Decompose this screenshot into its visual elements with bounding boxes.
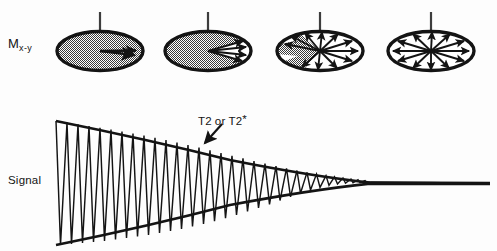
label-signal-axis: Signal	[8, 174, 41, 186]
label-mxy-base: M	[8, 36, 19, 51]
label-t2-star: *	[242, 113, 247, 125]
figure-canvas	[0, 0, 497, 251]
label-t2-second: T2	[228, 115, 242, 127]
label-transverse-magnetization: Mx-y	[8, 36, 32, 53]
label-t2-first: T2	[198, 115, 212, 127]
label-mxy-subscript: x-y	[19, 43, 32, 53]
figure-root: Mx-y Signal T2orT2*	[0, 0, 497, 251]
label-t2-conjunction: or	[215, 115, 226, 127]
label-t2-decay: T2orT2*	[198, 113, 247, 127]
